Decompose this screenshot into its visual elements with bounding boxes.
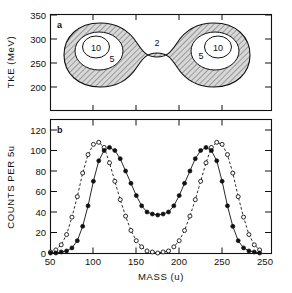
data-point-open (225, 153, 229, 157)
data-point-open (81, 171, 85, 175)
data-point-filled (193, 157, 197, 161)
data-point-filled (118, 157, 122, 161)
data-point-filled (225, 204, 229, 208)
series-open-circles-line (51, 142, 260, 253)
data-point-filled (252, 250, 256, 254)
xtick-label-4: 250 (214, 256, 230, 267)
data-point-filled (86, 204, 90, 208)
figure-container: 350 300 250 200 TKE (MeV) a 10 5 2 5 10 (0, 0, 292, 293)
data-point-filled (59, 250, 63, 254)
data-point-filled (91, 179, 95, 183)
panel-a: 350 300 250 200 TKE (MeV) a 10 5 2 5 10 (5, 10, 272, 111)
data-point-open (156, 251, 160, 255)
panel-a-ytick-0: 350 (30, 10, 46, 21)
data-point-open (65, 233, 69, 237)
data-point-open (242, 215, 246, 219)
data-point-filled (140, 204, 144, 208)
data-point-open (134, 239, 138, 243)
data-point-filled (54, 251, 58, 255)
data-point-filled (49, 251, 53, 255)
data-point-open (231, 171, 235, 175)
data-point-open (172, 245, 176, 249)
data-point-filled (172, 204, 176, 208)
data-point-filled (166, 210, 170, 214)
panel-a-ytick-3: 200 (30, 82, 46, 93)
panel-b-ytick-0: 120 (30, 125, 46, 136)
panel-a-label: a (57, 20, 63, 30)
data-point-open (161, 250, 165, 254)
data-point-open (86, 153, 90, 157)
data-point-filled (65, 249, 69, 253)
data-point-open (59, 243, 63, 247)
data-point-filled (199, 149, 203, 153)
data-point-filled (145, 210, 149, 214)
data-point-open (204, 161, 208, 165)
data-point-open (70, 215, 74, 219)
data-point-open (177, 239, 181, 243)
data-point-open (118, 198, 122, 202)
panel-b-ytick-4: 40 (35, 207, 46, 218)
data-point-open (124, 214, 128, 218)
data-point-open (215, 140, 219, 144)
data-point-filled (177, 194, 181, 198)
panel-b-label: b (57, 125, 63, 135)
data-point-filled (258, 251, 262, 255)
data-point-open (247, 233, 251, 237)
data-point-filled (150, 212, 154, 216)
panel-a-ytick-1: 300 (30, 34, 46, 45)
data-point-filled (113, 149, 117, 153)
data-point-filled (70, 246, 74, 250)
data-point-filled (204, 145, 208, 149)
contour-label-5-left: 5 (109, 54, 114, 64)
data-point-open (199, 179, 203, 183)
data-point-open (236, 195, 240, 199)
contour-label-5-right: 5 (198, 51, 203, 61)
data-point-open (129, 228, 133, 232)
data-point-filled (129, 181, 133, 185)
data-point-filled (247, 249, 251, 253)
data-point-filled (161, 212, 165, 216)
data-point-open (193, 198, 197, 202)
data-point-open (91, 142, 95, 146)
panel-b-ytick-2: 80 (35, 166, 46, 177)
data-point-open (150, 250, 154, 254)
data-point-filled (107, 145, 111, 149)
panel-b-yticks (51, 130, 272, 253)
contour-label-2-center: 2 (154, 38, 159, 48)
data-point-open (220, 142, 224, 146)
xtick-label-5: 250 (257, 256, 273, 267)
panel-b-ytick-1: 100 (30, 145, 46, 156)
figure-svg: 350 300 250 200 TKE (MeV) a 10 5 2 5 10 (0, 0, 292, 293)
data-point-open (140, 245, 144, 249)
data-point-open (145, 249, 149, 253)
panel-a-ylabel: TKE (MeV) (5, 36, 16, 88)
data-point-filled (81, 224, 85, 228)
panel-b-ytick-3: 60 (35, 186, 46, 197)
panel-b-ylabel: COUNTS PER 5u (5, 145, 16, 228)
data-point-filled (183, 181, 187, 185)
data-point-filled (236, 239, 240, 243)
data-point-filled (97, 159, 101, 163)
data-point-filled (209, 149, 213, 153)
data-point-open (188, 214, 192, 218)
data-point-open (107, 161, 111, 165)
panel-a-ytick-2: 250 (30, 58, 46, 69)
data-point-filled (124, 169, 128, 173)
data-point-open (75, 195, 79, 199)
data-point-filled (220, 179, 224, 183)
data-point-open (97, 140, 101, 144)
panel-b-series-layer (49, 140, 262, 255)
data-point-filled (188, 169, 192, 173)
data-point-open (113, 179, 117, 183)
data-point-open (166, 249, 170, 253)
panel-b-ytick-5: 20 (35, 227, 46, 238)
data-point-filled (242, 246, 246, 250)
data-point-filled (75, 239, 79, 243)
xtick-label-1: 100 (85, 256, 101, 267)
data-point-filled (215, 159, 219, 163)
panel-b: 120 100 80 60 40 20 0 COUNTS PER 5u b 50… (5, 120, 273, 283)
data-point-filled (134, 194, 138, 198)
xtick-label-3: 200 (171, 256, 187, 267)
xtick-label-0: 50 (45, 256, 56, 267)
data-point-filled (156, 213, 160, 217)
